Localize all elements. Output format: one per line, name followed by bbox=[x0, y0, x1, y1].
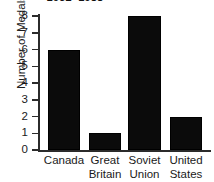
y-tick-label: 8 bbox=[6, 10, 28, 22]
bar[interactable] bbox=[89, 133, 121, 150]
bars-container bbox=[38, 16, 211, 150]
bar[interactable] bbox=[48, 50, 80, 151]
y-tick-label-wrap: 4 bbox=[4, 77, 28, 89]
x-label-line-1: Great bbox=[91, 154, 120, 166]
y-tick-label-wrap: 3 bbox=[4, 94, 28, 106]
y-tick-label-wrap: 6 bbox=[4, 44, 28, 56]
y-tick-label-wrap: 2 bbox=[4, 111, 28, 123]
y-axis-ticks: 012345678 bbox=[0, 0, 38, 182]
x-axis-labels: CanadaGreatBritainSovietUnionUnitedState… bbox=[38, 153, 211, 182]
x-label-line-1: United bbox=[169, 154, 202, 166]
y-tick-label: 2 bbox=[6, 111, 28, 123]
x-label-line-1: Soviet bbox=[129, 154, 161, 166]
x-label-line-2: States bbox=[161, 167, 211, 181]
x-axis-category-label: UnitedStates bbox=[161, 153, 211, 181]
y-tick-label: 1 bbox=[6, 127, 28, 139]
x-label-line-1: Canada bbox=[44, 154, 84, 166]
y-tick-label-wrap: 0 bbox=[4, 144, 28, 156]
y-tick-label: 0 bbox=[6, 144, 28, 156]
bar[interactable] bbox=[128, 16, 161, 150]
y-tick-label-wrap: 7 bbox=[4, 27, 28, 39]
bar-chart: 1932–1988 Number of Medals 012345678 Can… bbox=[0, 0, 214, 182]
x-axis-line bbox=[38, 150, 211, 152]
bar[interactable] bbox=[170, 117, 202, 151]
y-tick-label-wrap: 1 bbox=[4, 127, 28, 139]
y-tick-label: 7 bbox=[6, 27, 28, 39]
y-tick-label-wrap: 5 bbox=[4, 60, 28, 72]
y-tick-label: 4 bbox=[6, 77, 28, 89]
y-tick-label: 5 bbox=[6, 60, 28, 72]
y-tick-label: 6 bbox=[6, 44, 28, 56]
y-tick-label-wrap: 8 bbox=[4, 10, 28, 22]
y-tick-label: 3 bbox=[6, 94, 28, 106]
